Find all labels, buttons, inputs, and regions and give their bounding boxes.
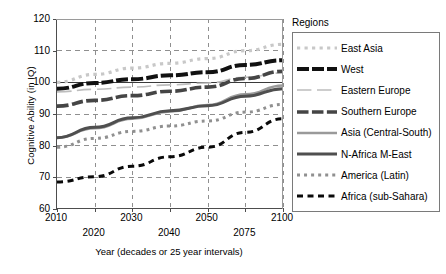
legend-item-label: Southern Europe: [341, 106, 417, 117]
legend-item[interactable]: West: [297, 59, 439, 79]
legend-item[interactable]: N-Africa M-East: [297, 144, 439, 164]
legend-item-label: Eastern Europe: [341, 85, 411, 96]
legend-box: East AsiaWestEastern EuropeSouthern Euro…: [292, 32, 440, 212]
legend-swatch-icon: [297, 106, 337, 118]
y-axis-tick-mark: [53, 114, 57, 115]
y-axis-tick-label: 70: [24, 172, 50, 182]
y-axis-tick-label: 110: [24, 46, 50, 56]
plot-top-border: [56, 19, 282, 20]
legend-item[interactable]: Asia (Central-South): [297, 123, 439, 143]
y-axis-tick-label: 80: [24, 141, 50, 151]
x-axis-tick-label: 2100: [257, 212, 307, 223]
legend-swatch-icon: [297, 190, 337, 202]
y-axis-tick-mark: [53, 177, 57, 178]
x-axis-tick-label: 2010: [31, 212, 81, 223]
x-axis-title: Year (decades or 25 year intervals): [56, 246, 282, 257]
legend-swatch-icon: [297, 63, 337, 75]
legend-swatch-icon: [297, 169, 337, 181]
legend-item[interactable]: Southern Europe: [297, 102, 439, 122]
legend-item-label: Asia (Central-South): [341, 127, 432, 138]
y-axis-tick-label: 90: [24, 109, 50, 119]
plot-right-border: [282, 19, 283, 209]
legend-item-label: Africa (sub-Sahara): [341, 191, 428, 202]
legend-item[interactable]: America (Latin): [297, 165, 439, 185]
x-axis-tick-label: 2020: [69, 227, 119, 238]
x-axis-tick-mark: [170, 208, 171, 212]
series-lines-layer: [57, 19, 283, 209]
y-axis-tick-mark: [53, 146, 57, 147]
y-axis-tick-mark: [53, 51, 57, 52]
legend-item[interactable]: East Asia: [297, 38, 439, 58]
x-axis-tick-mark: [95, 208, 96, 212]
legend-item-label: America (Latin): [341, 170, 409, 181]
y-axis-tick-mark: [53, 82, 57, 83]
legend-item[interactable]: Africa (sub-Sahara): [297, 186, 439, 206]
legend-swatch-icon: [297, 42, 337, 54]
y-axis-tick-label: 100: [24, 77, 50, 87]
y-axis-tick-labels: 60708090100110120: [22, 0, 50, 274]
plot-area: [56, 19, 282, 209]
legend-swatch-icon: [297, 127, 337, 139]
legend-item[interactable]: Eastern Europe: [297, 80, 439, 100]
series-line: [57, 89, 283, 138]
x-axis-tick-mark: [245, 208, 246, 212]
legend-swatch-icon: [297, 84, 337, 96]
x-axis-tick-label: 2030: [106, 212, 156, 223]
legend-item-label: East Asia: [341, 43, 383, 54]
legend-swatch-icon: [297, 148, 337, 160]
x-axis-tick-label: 2075: [219, 227, 269, 238]
legend-item-label: N-Africa M-East: [341, 149, 412, 160]
cognitive-ability-chart: Cognitive Ability (in IQ) 60708090100110…: [0, 0, 446, 274]
y-axis-tick-label: 120: [24, 14, 50, 24]
legend-title: Regions: [292, 17, 329, 28]
legend-item-label: West: [341, 64, 364, 75]
x-axis-tick-label: 2050: [182, 212, 232, 223]
x-axis-tick-label: 2040: [144, 227, 194, 238]
